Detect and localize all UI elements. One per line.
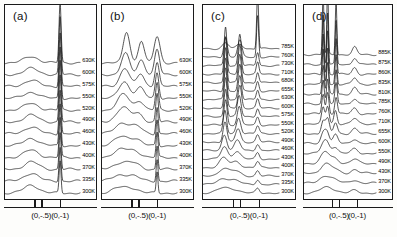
axis-tick xyxy=(233,200,234,207)
axis-tick-label: (0,-.5) xyxy=(329,211,349,220)
trace-c-335K xyxy=(203,179,279,185)
axis-line xyxy=(202,207,296,208)
trace-a-550K xyxy=(5,47,80,100)
x-axis-d: (0,-.5)(0,-1) xyxy=(303,199,393,235)
panel-b: (b)630K600K575K550K520K490K460K430K400K3… xyxy=(101,0,194,237)
trace-b-400K xyxy=(102,132,177,158)
trace-d-370K xyxy=(304,176,376,183)
traces-b xyxy=(102,5,193,199)
trace-a-600K xyxy=(5,17,80,76)
plot-area-c: (c) xyxy=(202,4,296,200)
panel-c: (c)785K760K730K710K680K655K630K600K575K5… xyxy=(202,0,296,237)
axis-tick-label: (0,-.5) xyxy=(230,211,250,220)
axis-tick xyxy=(131,200,132,207)
plot-area-b: (b) xyxy=(101,4,194,200)
axis-tick-label: (0,-1) xyxy=(348,211,366,220)
plot-area-a: (a) xyxy=(4,4,97,200)
axis-tick xyxy=(138,200,139,207)
trace-c-430K xyxy=(203,147,279,160)
trace-c-400K xyxy=(203,157,279,168)
trace-a-575K xyxy=(5,33,80,88)
trace-d-810K xyxy=(304,62,376,95)
trace-d-860K xyxy=(304,31,376,75)
x-axis-c: (0,-.5)(0,-1) xyxy=(202,199,296,235)
trace-d-490K xyxy=(304,151,376,164)
plot-area-d: (d) xyxy=(303,4,393,200)
panel-container: (a)630K600K575K550K520K490K460K430K400K3… xyxy=(0,0,397,237)
trace-a-400K xyxy=(5,117,80,158)
trace-d-785K xyxy=(304,79,376,105)
trace-a-370K xyxy=(5,133,80,171)
axis-tick xyxy=(332,200,333,207)
trace-d-710K xyxy=(304,106,376,124)
axis-tick xyxy=(157,200,158,207)
axis-tick xyxy=(357,200,358,207)
trace-d-835K xyxy=(304,48,376,85)
trace-b-630K xyxy=(102,33,177,64)
trace-a-460K xyxy=(5,90,80,135)
axis-tick xyxy=(240,200,241,207)
axis-tick-label: (0,-1) xyxy=(148,211,166,220)
trace-d-655K xyxy=(304,118,376,135)
panel-label-d: (d) xyxy=(312,10,327,22)
axis-tick-label: (0,-.5) xyxy=(31,211,51,220)
trace-b-335K xyxy=(102,160,177,182)
axis-tick xyxy=(259,200,260,207)
figure-root: (a)630K600K575K550K520K490K460K430K400K3… xyxy=(0,0,397,237)
axis-tick-label: (0,-1) xyxy=(250,211,268,220)
axis-line xyxy=(4,207,97,208)
axis-tick xyxy=(34,200,35,207)
traces-a xyxy=(5,5,96,199)
trace-a-430K xyxy=(5,104,80,147)
panel-label-c: (c) xyxy=(211,10,225,22)
trace-a-520K xyxy=(5,60,80,111)
trace-a-335K xyxy=(5,147,80,182)
panel-a: (a)630K600K575K550K520K490K460K430K400K3… xyxy=(4,0,97,237)
trace-b-430K xyxy=(102,120,177,147)
trace-d-300K xyxy=(304,187,376,194)
trace-c-300K xyxy=(203,187,279,193)
traces-d xyxy=(304,5,392,199)
trace-c-370K xyxy=(203,168,279,177)
trace-d-430K xyxy=(304,163,376,174)
trace-a-490K xyxy=(5,75,80,123)
x-axis-b: (0,-.5)(0,-1) xyxy=(101,199,194,235)
panel-label-b: (b) xyxy=(110,10,125,22)
trace-b-490K xyxy=(102,93,177,123)
axis-line xyxy=(303,207,393,208)
x-axis-a: (0,-.5)(0,-1) xyxy=(4,199,97,235)
axis-line xyxy=(101,207,194,208)
trace-a-300K xyxy=(5,161,80,194)
panel-d: (d)885K875K860K835K810K785K760K710K655K6… xyxy=(303,0,393,237)
trace-b-300K xyxy=(102,172,177,194)
trace-d-600K xyxy=(304,129,376,144)
traces-c xyxy=(203,5,295,199)
trace-c-460K xyxy=(203,135,279,151)
axis-tick xyxy=(60,200,61,207)
axis-tick xyxy=(339,200,340,207)
axis-tick-label: (0,-1) xyxy=(51,211,69,220)
panel-label-a: (a) xyxy=(13,10,28,22)
axis-tick-label: (0,-.5) xyxy=(128,211,148,220)
axis-tick xyxy=(41,200,42,207)
